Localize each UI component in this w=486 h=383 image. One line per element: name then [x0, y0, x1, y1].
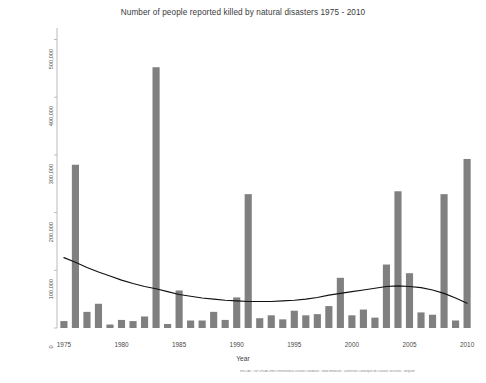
bar — [187, 321, 194, 329]
bar — [164, 324, 171, 328]
bar — [176, 291, 183, 329]
x-axis-title: Year — [0, 355, 486, 362]
bar — [429, 315, 436, 328]
bar — [440, 194, 447, 328]
bar — [245, 194, 252, 328]
bar — [348, 315, 355, 328]
x-tick-label: 2005 — [389, 341, 429, 348]
bar — [394, 191, 401, 328]
bar — [279, 319, 286, 328]
bar — [268, 315, 275, 328]
chart-title: Number of people reported killed by natu… — [0, 8, 486, 17]
bar — [222, 320, 229, 328]
bar — [95, 304, 102, 328]
bar — [233, 297, 240, 328]
x-tick-label: 2010 — [447, 341, 486, 348]
chart-canvas — [46, 22, 476, 329]
bar — [118, 320, 125, 328]
x-tick-label: 1980 — [102, 341, 142, 348]
bar — [129, 321, 136, 328]
x-tick-label: 2000 — [332, 341, 372, 348]
bar — [325, 306, 332, 328]
source-note: EM-DAT: The OFDA/CRED International Disa… — [240, 370, 484, 374]
bar — [210, 312, 217, 328]
chart-figure: Number of people reported killed by natu… — [0, 0, 486, 383]
bar — [360, 310, 367, 328]
bar — [106, 325, 113, 328]
bar — [452, 321, 459, 329]
bar — [291, 311, 298, 328]
bar — [337, 278, 344, 328]
bar — [72, 165, 79, 328]
bar — [60, 321, 67, 328]
x-tick-label: 1975 — [44, 341, 84, 348]
bar — [256, 318, 263, 328]
bar — [417, 312, 424, 328]
plot-area — [46, 22, 476, 329]
bar-series — [60, 67, 470, 328]
bar — [83, 312, 90, 328]
x-tick-label: 1990 — [217, 341, 257, 348]
x-tick-label: 1985 — [159, 341, 199, 348]
bar — [371, 318, 378, 328]
bar — [199, 321, 206, 329]
bar — [406, 273, 413, 328]
bar — [302, 315, 309, 328]
bar — [383, 265, 390, 328]
bar — [141, 316, 148, 328]
x-tick-label: 1995 — [274, 341, 314, 348]
bar — [314, 314, 321, 328]
